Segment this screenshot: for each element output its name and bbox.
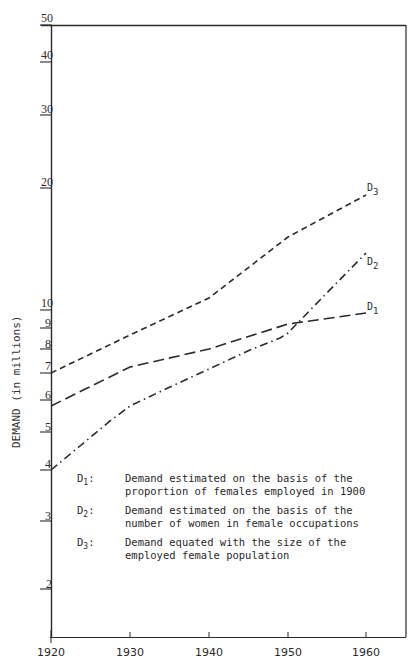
- y-tick-30: 30: [41, 102, 53, 116]
- legend-item-d1: D1: Demand estimated on the basis of the…: [77, 472, 407, 498]
- x-tick-marks: [51, 630, 366, 643]
- legend-item-d3: D3: Demand equated with the size of the …: [77, 536, 407, 562]
- series-d3-line: [51, 195, 366, 373]
- y-tick-3: 3: [45, 509, 51, 523]
- legend: D1: Demand estimated on the basis of the…: [77, 472, 407, 568]
- y-tick-20: 20: [41, 175, 53, 189]
- series-d3-label: D3: [367, 182, 378, 197]
- x-tick-labels: 1920 1930 1940 1950 1960: [37, 646, 380, 659]
- legend-key-d3: D3:: [77, 536, 125, 562]
- y-tick-7: 7: [45, 359, 51, 373]
- series-d2-label: D2: [367, 256, 378, 271]
- y-tick-50: 50: [41, 11, 53, 25]
- y-axis-title: DEMAND (in millions): [10, 316, 23, 448]
- legend-text-d1: Demand estimated on the basis of the pro…: [125, 472, 407, 498]
- legend-item-d2: D2: Demand estimated on the basis of the…: [77, 504, 407, 530]
- series-d2-line: [51, 253, 366, 470]
- x-tick-1960: 1960: [352, 646, 380, 659]
- y-tick-40: 40: [41, 48, 53, 62]
- x-tick-1920: 1920: [37, 646, 65, 659]
- y-tick-10: 10: [41, 296, 53, 310]
- series-d1-line: [51, 313, 366, 406]
- legend-key-d1: D1:: [77, 472, 125, 498]
- x-tick-1930: 1930: [116, 646, 144, 659]
- y-tick-6: 6: [45, 388, 51, 402]
- x-tick-1950: 1950: [274, 646, 302, 659]
- y-tick-2: 2: [46, 577, 52, 591]
- y-tick-5: 5: [45, 420, 51, 434]
- y-tick-4: 4: [45, 457, 51, 471]
- legend-text-d3: Demand equated with the size of the empl…: [125, 536, 407, 562]
- y-tick-9: 9: [45, 316, 51, 330]
- series-d1-label: D1: [367, 301, 378, 316]
- legend-key-d2: D2:: [77, 504, 125, 530]
- y-tick-8: 8: [45, 337, 51, 351]
- x-tick-1940: 1940: [195, 646, 223, 659]
- legend-text-d2: Demand estimated on the basis of the num…: [125, 504, 407, 530]
